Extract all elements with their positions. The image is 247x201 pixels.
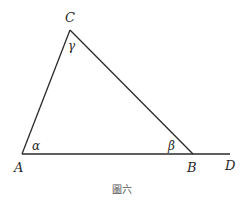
point-label-d: D — [224, 158, 236, 173]
point-label-a: A — [13, 160, 23, 175]
triangle-diagram: C A B D γ α β 圖六 — [0, 0, 247, 201]
segment-ac — [22, 30, 70, 154]
angle-label-alpha: α — [32, 139, 40, 153]
angle-label-gamma: γ — [68, 39, 76, 53]
angle-label-beta: β — [167, 139, 175, 153]
figure-caption: 圖六 — [112, 184, 132, 195]
point-label-b: B — [186, 160, 197, 175]
point-label-c: C — [65, 10, 75, 25]
segment-cb — [70, 30, 193, 154]
